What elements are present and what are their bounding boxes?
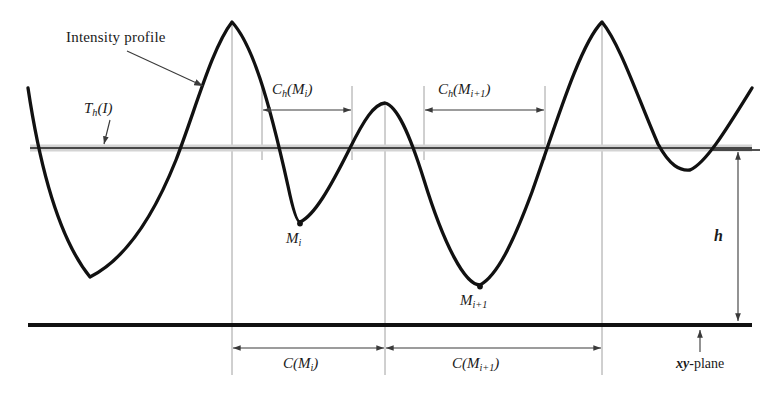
- label-c-mi: C(Mi): [283, 356, 318, 373]
- minimum-marker-i-plus-1: [477, 284, 483, 290]
- label-minimum-i-plus-1: Mi+1: [460, 293, 487, 310]
- leader-line-intensity-profile: [127, 51, 203, 86]
- intensity-profile-curve: [28, 22, 752, 285]
- label-ch-mi1-arg-close: ): [485, 81, 490, 97]
- label-minimum-i-symbol: M: [286, 230, 299, 246]
- label-ch-mi-plus-1: Ch(Mi+1): [438, 82, 490, 99]
- minimum-marker-i: [297, 221, 303, 227]
- label-c-mi1-arg-open: (M: [462, 355, 480, 371]
- label-height: h: [714, 228, 723, 244]
- label-minimum-i-sub: i: [299, 237, 302, 248]
- label-c-mi-arg-open: (M: [293, 355, 311, 371]
- label-threshold: Th(I): [84, 101, 112, 118]
- label-c-mi-plus-1: C(Mi+1): [452, 356, 499, 373]
- label-c-mi1-arg-close: ): [494, 355, 499, 371]
- intensity-profile-diagram: Intensity profile Th(I) Ch(Mi) Ch(Mi+1) …: [0, 0, 780, 394]
- label-threshold-arg: (I): [97, 100, 112, 116]
- label-ch-mi1-arg-sub: i+1: [471, 88, 486, 99]
- label-c-mi1-symbol: C: [452, 355, 462, 371]
- leader-line-threshold: [104, 120, 110, 144]
- label-c-mi-symbol: C: [283, 355, 293, 371]
- label-minimum-i1-sub: i+1: [473, 299, 488, 310]
- label-xy-plane-axes: xy: [676, 356, 689, 371]
- label-ch-mi-arg-close: ): [307, 81, 312, 97]
- label-c-mi1-arg-sub: i+1: [480, 362, 495, 373]
- label-ch-mi: Ch(Mi): [272, 82, 312, 99]
- label-xy-plane: xy-plane: [676, 357, 724, 371]
- label-ch-mi1-arg-open: (M: [453, 81, 471, 97]
- label-ch-mi-arg-open: (M: [287, 81, 305, 97]
- label-minimum-i1-symbol: M: [460, 292, 473, 308]
- peak-guide-lines: [232, 22, 602, 375]
- label-minimum-i: Mi: [286, 231, 301, 248]
- label-intensity-profile: Intensity profile: [66, 30, 166, 45]
- label-ch-mi1-symbol: C: [438, 81, 448, 97]
- diagram-canvas: [0, 0, 780, 394]
- label-ch-mi-symbol: C: [272, 81, 282, 97]
- label-c-mi-arg-close: ): [313, 355, 318, 371]
- label-xy-plane-suffix: -plane: [689, 356, 724, 371]
